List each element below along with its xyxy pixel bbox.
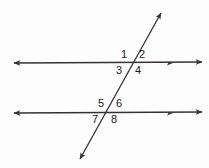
- bottom-parallel-line: [14, 112, 202, 113]
- angle-label-2: 2: [136, 49, 148, 60]
- angle-label-3: 3: [113, 65, 125, 76]
- angle-label-4: 4: [132, 65, 144, 76]
- angle-label-6: 6: [113, 98, 125, 109]
- transversal-line: [80, 13, 161, 159]
- geometry-figure: 1 2 3 4 5 6 7 8: [0, 0, 209, 168]
- geometry-canvas: [0, 0, 209, 168]
- angle-label-1: 1: [118, 49, 130, 60]
- angle-label-8: 8: [108, 114, 120, 125]
- angle-label-7: 7: [89, 114, 101, 125]
- top-parallel-line-group: [14, 62, 202, 65]
- angle-label-5: 5: [95, 98, 107, 109]
- transversal-line-group: [80, 13, 161, 159]
- top-parallel-line: [14, 62, 202, 63]
